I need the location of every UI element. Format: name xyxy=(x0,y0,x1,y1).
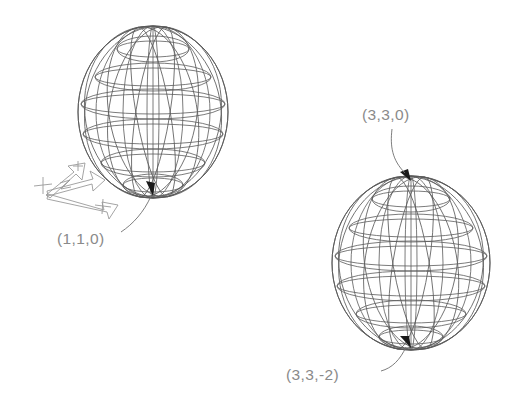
left-sphere xyxy=(71,15,235,208)
label-3-3-0: (3,3,0) xyxy=(362,106,410,123)
label-1-1-0: (1,1,0) xyxy=(57,230,105,247)
axis-y-plus xyxy=(34,177,52,194)
leader-line-3-3-0 xyxy=(391,129,405,173)
label-3-3-minus-2: (3,3,-2) xyxy=(286,366,339,383)
right-sphere xyxy=(325,165,497,361)
ucs-axis-indicator xyxy=(34,161,118,219)
leader-line-3-3-minus2 xyxy=(381,347,406,371)
axis-z-plus xyxy=(73,161,83,171)
axis-z-arrow xyxy=(46,163,85,198)
leader-line-1-1-0 xyxy=(121,196,151,232)
drawing-canvas: (1,1,0) (3,3,0) (3,3,-2) xyxy=(0,0,530,404)
